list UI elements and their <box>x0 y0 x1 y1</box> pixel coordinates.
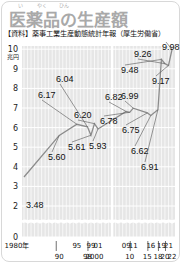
data-label: 6.78 <box>100 116 118 126</box>
data-label: 5.60 <box>48 152 66 162</box>
axis-break <box>22 221 178 222</box>
data-label: 9.48 <box>121 65 139 75</box>
y-tick-label: 7 <box>13 104 18 113</box>
data-label: 6.04 <box>56 74 74 84</box>
y-tick-label: 9 <box>13 65 18 74</box>
data-label: 6.17 <box>38 90 56 100</box>
data-label: 9.26 <box>134 49 152 59</box>
data-label: 6.62 <box>131 146 149 156</box>
x-tick-label: 10 <box>125 253 134 261</box>
x-tick-label: 1980年 <box>5 241 30 250</box>
y-tick-label: 3 <box>13 182 18 191</box>
data-label: 6.91 <box>141 162 159 172</box>
x-tick-label: 22 <box>168 253 177 261</box>
y-tick-label: 4 <box>13 163 18 172</box>
x-tick-label: 01 <box>94 242 103 250</box>
data-label: 6.20 <box>74 110 92 120</box>
y-tick-label: 0 <box>13 233 18 242</box>
data-label: 6.82 <box>105 92 123 102</box>
y-tick-label: 2 <box>13 202 18 211</box>
data-label: 9.17 <box>152 76 170 86</box>
x-tick-label: 95 <box>72 242 81 250</box>
y-tick-label: 8 <box>13 84 18 93</box>
data-label: 5.61 <box>68 142 86 152</box>
data-label: 6.99 <box>121 91 139 101</box>
line-chart: 02345678910兆円3.485.606.176.045.616.205.9… <box>0 0 181 263</box>
y-unit-label: 兆円 <box>7 53 19 61</box>
data-label: 9.98 <box>162 42 180 52</box>
x-tick-label: 90 <box>55 253 64 261</box>
x-tick-label: 15 <box>143 253 152 261</box>
data-label: 3.48 <box>26 200 44 210</box>
data-label: 6.75 <box>122 125 140 135</box>
data-label: 5.93 <box>89 141 107 151</box>
x-tick-label: 2000 <box>86 253 104 261</box>
y-tick-label: 6 <box>13 124 18 133</box>
y-tick-label: 5 <box>13 143 18 152</box>
